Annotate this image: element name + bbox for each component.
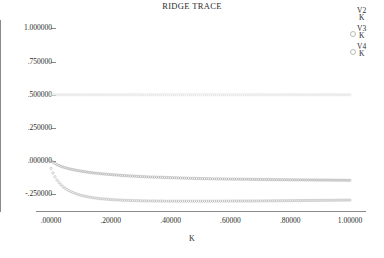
series-v3 <box>50 167 351 202</box>
data-point <box>56 179 58 181</box>
legend-marker-icon <box>350 49 356 55</box>
legend-denominator: K <box>359 14 364 22</box>
legend-marker-icon <box>350 31 356 37</box>
legend-entry-v3[interactable]: V3K <box>348 26 384 44</box>
data-point <box>60 184 62 186</box>
data-point <box>349 199 351 201</box>
x-axis-title: K <box>0 234 384 243</box>
data-point <box>349 94 351 96</box>
legend-denominator: K <box>359 32 364 40</box>
legend-entry-v2[interactable]: V2K <box>348 8 384 26</box>
data-point <box>50 167 52 169</box>
data-point <box>349 179 351 181</box>
legend: V2KV3KV4K <box>348 8 384 68</box>
ridge-trace-chart: RIDGE TRACE 1.000000.750000.500000.25000… <box>0 0 384 258</box>
data-point <box>58 181 60 183</box>
data-series-layer <box>0 0 384 258</box>
series-v4 <box>50 94 351 96</box>
data-point <box>52 172 54 174</box>
series-v2 <box>50 159 351 181</box>
legend-entry-v4[interactable]: V4K <box>348 44 384 62</box>
data-point <box>54 176 56 178</box>
legend-denominator: K <box>359 50 364 58</box>
